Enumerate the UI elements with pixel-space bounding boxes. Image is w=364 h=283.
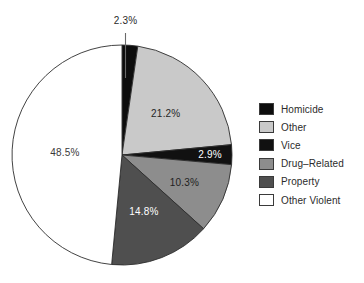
pie-slice-other[interactable] <box>122 46 232 155</box>
chart-legend: Homicide Other Vice Drug–Related Propert… <box>259 100 363 209</box>
homicide-callout-label: 2.3% <box>114 15 138 26</box>
legend-label-drug-related: Drug–Related <box>281 158 344 169</box>
legend-item-property[interactable]: Property <box>259 173 363 191</box>
slice-value-label-other: 21.2% <box>151 108 180 119</box>
legend-item-drug-related[interactable]: Drug–Related <box>259 155 363 173</box>
legend-label-homicide: Homicide <box>281 104 323 115</box>
slice-value-label-drug-related: 10.3% <box>170 177 199 188</box>
legend-swatch-other <box>259 121 274 133</box>
slice-value-label-property: 14.8% <box>129 206 158 217</box>
legend-item-vice[interactable]: Vice <box>259 136 363 154</box>
legend-item-other[interactable]: Other <box>259 118 363 136</box>
legend-swatch-homicide <box>259 103 274 115</box>
pie-chart-figure: 2.3% 21.2%2.9%10.3%14.8%48.5% Homicide O… <box>0 0 364 283</box>
legend-item-other-violent[interactable]: Other Violent <box>259 191 363 209</box>
legend-swatch-other-violent <box>259 194 274 206</box>
legend-label-vice: Vice <box>281 140 301 151</box>
legend-item-homicide[interactable]: Homicide <box>259 100 363 118</box>
legend-swatch-property <box>259 176 274 188</box>
slice-value-label-vice: 2.9% <box>198 149 222 160</box>
slice-value-label-other-violent: 48.5% <box>50 147 79 158</box>
legend-label-other-violent: Other Violent <box>281 195 340 206</box>
legend-label-property: Property <box>281 176 320 187</box>
legend-label-other: Other <box>281 122 307 133</box>
legend-swatch-drug-related <box>259 158 274 170</box>
legend-swatch-vice <box>259 139 274 151</box>
